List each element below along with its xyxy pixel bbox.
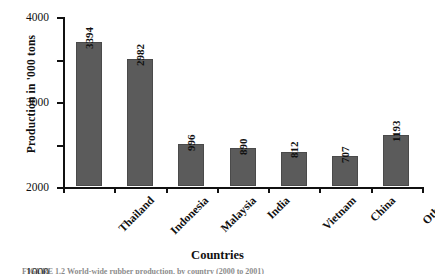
x-tick [217,187,219,193]
bar-value-label: 812 [288,142,300,159]
x-tick [371,187,373,193]
bar-value-label: 3394 [83,27,95,49]
x-tick [268,187,270,193]
y-axis-title: Production in '000 tons [25,0,37,189]
bar-value-label: 707 [339,146,351,163]
bar-value-label: 890 [237,139,249,156]
y-axis-line [63,17,65,189]
y-tick-label: 2000 [26,181,49,193]
bar [127,59,153,186]
y-tick-label: 3000 [26,96,49,108]
y-tick-label: 4000 [26,11,49,23]
y-tick: 4000 [57,17,63,19]
x-tick-label: Malaysia [218,194,258,234]
x-tick [63,187,65,193]
figure-caption: FIGURE 1.2 World-wide rubber production,… [22,267,412,274]
x-axis-title: Countries [0,248,435,263]
x-tick [166,187,168,193]
x-axis-line [63,187,422,189]
x-tick-label: India [264,194,291,221]
x-tick-label: Thailand [116,194,156,234]
x-tick [422,187,424,193]
plot-area: 01000200030004000 3394298299689081270711… [63,17,422,188]
bar-value-label: 1193 [390,121,402,142]
x-tick [319,187,321,193]
x-tick-label: Vietnam [320,194,358,232]
bar [76,42,102,186]
y-tick: 3000 [57,60,63,62]
y-tick: 1000 [57,145,63,147]
figure-container: Production in '000 tons 0100020003000400… [0,0,435,274]
bar [383,135,409,186]
y-tick: 2000 [57,102,63,104]
x-tick-label: Indonesia [168,194,210,236]
x-tick [114,187,116,193]
bar-value-label: 2982 [134,44,146,66]
bar-value-label: 996 [185,134,197,151]
x-tick-label: China [368,194,398,224]
x-tick-label: Others [420,194,435,226]
